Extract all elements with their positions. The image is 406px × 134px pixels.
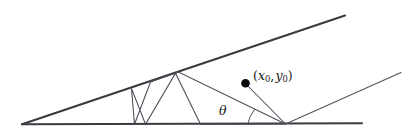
geometry-figure: (x0, y0) θ <box>0 0 406 134</box>
figure-canvas <box>0 0 406 134</box>
label-comma: , <box>270 68 274 83</box>
source-point-dot <box>241 79 250 88</box>
label-x-variable: x <box>258 68 265 83</box>
lower-boundary-line <box>22 123 362 124</box>
label-close-paren: ) <box>288 68 293 83</box>
label-y-variable: y <box>275 68 282 83</box>
theta-angle-label: θ <box>219 105 227 118</box>
figure-background <box>0 0 406 134</box>
point-coordinate-label: (x0, y0) <box>253 70 293 83</box>
